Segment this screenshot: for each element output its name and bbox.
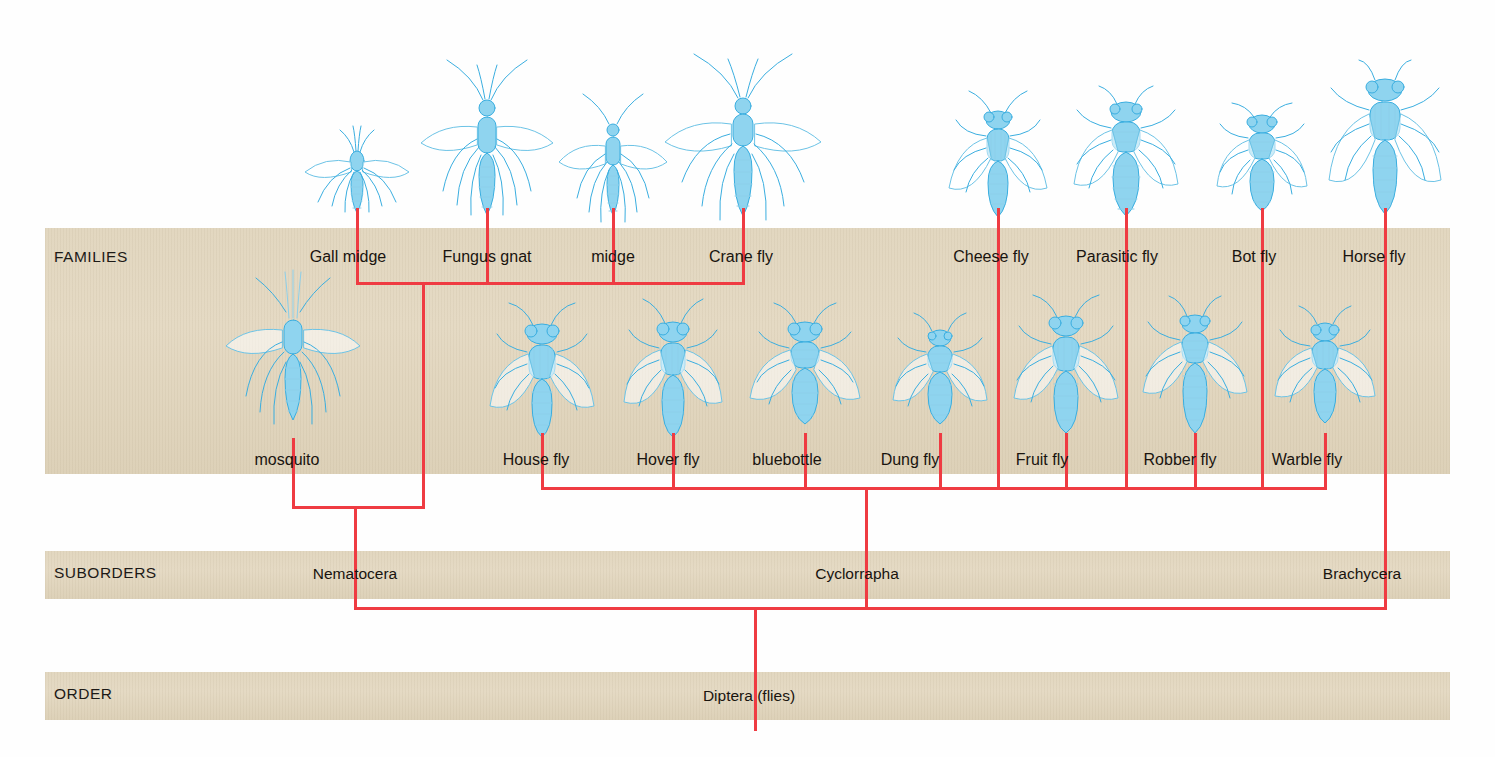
- family-label-fruit-fly: Fruit fly: [1016, 451, 1068, 469]
- connector-nematocera-merge-bar: [292, 506, 425, 509]
- family-label-house-fly: House fly: [503, 451, 570, 469]
- illustration-warble-fly: [1264, 302, 1386, 434]
- family-label-fungus-gnat: Fungus gnat: [443, 248, 532, 266]
- family-label-warble-fly: Warble fly: [1272, 451, 1343, 469]
- family-label-robber-fly: Robber fly: [1144, 451, 1217, 469]
- family-label-parasitic-fly: Parasitic fly: [1076, 248, 1158, 266]
- diptera-classification-chart: FAMILIES SUBORDERS ORDER Gall midge Fung…: [0, 0, 1495, 757]
- connector-midge-stem: [612, 208, 615, 285]
- rank-label-order: ORDER: [54, 685, 112, 703]
- family-label-mosquito: mosquito: [255, 451, 320, 469]
- illustration-robber-fly: [1132, 292, 1258, 438]
- connector-crane-fly-stem: [742, 208, 745, 285]
- suborder-label-brachycera: Brachycera: [1323, 565, 1401, 583]
- suborder-label-nematocera: Nematocera: [313, 565, 397, 583]
- illustration-parasitic-fly: [1057, 82, 1195, 222]
- order-label-diptera: Diptera (flies): [703, 687, 795, 705]
- illustration-horse-fly: [1311, 60, 1459, 222]
- family-label-horse-fly: Horse fly: [1342, 248, 1405, 266]
- illustration-dung-fly: [882, 310, 998, 434]
- family-label-gall-midge: Gall midge: [310, 248, 386, 266]
- illustration-house-fly: [479, 298, 605, 440]
- connector-nematocera-suborder-stem: [354, 506, 357, 610]
- family-label-bot-fly: Bot fly: [1232, 248, 1276, 266]
- connector-mosquito-stem: [292, 438, 295, 509]
- illustration-bluebottle: [743, 300, 867, 436]
- family-label-bluebottle: bluebottle: [752, 451, 821, 469]
- connector-fungus-gnat-stem: [486, 208, 489, 285]
- illustration-cheese-fly: [934, 88, 1062, 222]
- illustration-bot-fly: [1206, 96, 1318, 222]
- rank-label-suborders: SUBORDERS: [54, 564, 157, 582]
- illustration-fruit-fly: [1003, 292, 1129, 436]
- connector-order-merge-bar: [354, 607, 1387, 610]
- connector-nematocera-top-drop: [422, 282, 425, 509]
- family-label-crane-fly: Crane fly: [709, 248, 773, 266]
- rank-label-families: FAMILIES: [54, 248, 128, 266]
- illustration-hover-fly: [611, 296, 735, 440]
- suborders-band: [45, 551, 1450, 599]
- family-label-midge: midge: [591, 248, 635, 266]
- illustration-midge: [551, 90, 675, 222]
- family-label-hover-fly: Hover fly: [636, 451, 699, 469]
- connector-gall-midge-stem: [356, 208, 359, 285]
- illustration-crane-fly: [658, 48, 828, 226]
- connector-dung-fly-stem: [939, 433, 942, 490]
- connector-cyclorrapha-bar: [541, 487, 1327, 490]
- suborder-label-cyclorrapha: Cyclorrapha: [815, 565, 899, 583]
- illustration-gall-midge: [298, 118, 416, 222]
- connector-cyclorrapha-suborder-stem: [865, 487, 868, 610]
- family-label-dung-fly: Dung fly: [881, 451, 940, 469]
- connector-horse-fly-stem: [1384, 208, 1387, 610]
- illustration-fungus-gnat: [413, 55, 561, 223]
- connector-order-stem: [754, 607, 757, 731]
- connector-nematocera-top-bar: [356, 282, 745, 285]
- family-label-cheese-fly: Cheese fly: [953, 248, 1029, 266]
- illustration-mosquito: [222, 268, 364, 438]
- band-texture: [45, 551, 1450, 599]
